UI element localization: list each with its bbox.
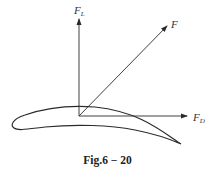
drag-label: FD <box>193 112 205 125</box>
figure-caption: Fig.6 − 20 <box>0 154 215 166</box>
figure-canvas: FL F FD Fig.6 − 20 <box>0 0 215 177</box>
airfoil-outline <box>12 106 181 144</box>
resultant-force-label: F <box>171 19 178 30</box>
resultant-force-arrow <box>79 26 167 116</box>
lift-label: FL <box>74 5 85 18</box>
force-diagram <box>0 0 215 177</box>
